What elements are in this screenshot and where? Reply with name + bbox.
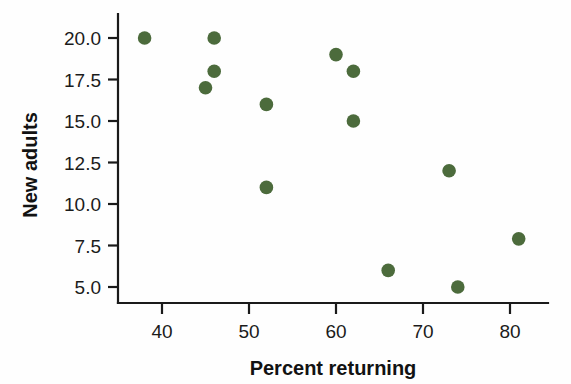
y-axis-tick-group (108, 38, 118, 287)
data-point (260, 181, 274, 195)
y-tick-label: 12.5 (64, 153, 101, 174)
y-tick-label: 17.5 (64, 70, 101, 91)
y-axis-title: New adults (19, 112, 41, 218)
data-points-layer (138, 31, 526, 294)
data-point (207, 64, 221, 78)
y-tick-label: 10.0 (64, 194, 101, 215)
data-point (512, 232, 526, 246)
plot-canvas: 5.07.510.012.515.017.520.0 4050607080 Pe… (0, 0, 571, 384)
data-point (451, 280, 465, 294)
data-point (199, 81, 213, 95)
data-point (207, 31, 221, 45)
x-axis-tick-group (162, 303, 510, 314)
y-axis-tick-labels: 5.07.510.012.515.017.520.0 (64, 28, 101, 298)
data-point (347, 64, 361, 78)
y-tick-label: 5.0 (75, 277, 101, 298)
y-tick-label: 15.0 (64, 111, 101, 132)
x-tick-label: 70 (412, 321, 433, 342)
x-tick-label: 60 (325, 321, 346, 342)
y-tick-label: 20.0 (64, 28, 101, 49)
data-point (442, 164, 456, 178)
data-point (329, 48, 343, 62)
scatter-plot-figure: 5.07.510.012.515.017.520.0 4050607080 Pe… (0, 0, 571, 384)
data-point (260, 98, 274, 112)
data-point (347, 114, 361, 128)
data-point (138, 31, 152, 45)
x-axis-title: Percent returning (250, 357, 417, 379)
x-tick-label: 50 (238, 321, 259, 342)
x-axis-tick-labels: 4050607080 (151, 321, 520, 342)
x-tick-label: 80 (499, 321, 520, 342)
y-tick-label: 7.5 (75, 236, 101, 257)
data-point (381, 264, 395, 278)
x-tick-label: 40 (151, 321, 172, 342)
